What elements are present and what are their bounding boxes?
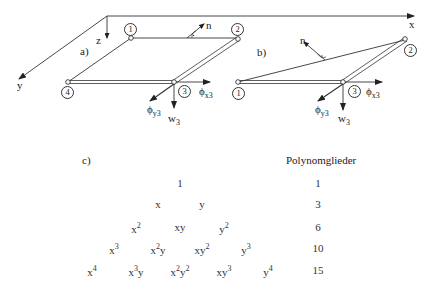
normal-label-b: n	[300, 35, 306, 46]
x-axis-label: x	[409, 19, 415, 30]
y-axis	[19, 16, 107, 79]
polynomial-term: xy3	[217, 265, 232, 278]
polynomial-term: xy2	[195, 243, 210, 256]
figure-b-label: b)	[257, 47, 266, 58]
figure-c-label: c)	[82, 155, 91, 166]
polynomial-term: y2	[219, 222, 229, 235]
phi-x-label-b: ϕx3	[366, 86, 380, 100]
node-3-a	[172, 80, 177, 85]
polynomial-term: x3y	[129, 265, 144, 278]
term-count: 1	[315, 178, 321, 189]
figure-a-label: a)	[80, 46, 89, 57]
global-axes	[19, 16, 414, 79]
node-label-2-b: 2	[404, 44, 417, 57]
plate-quad	[66, 24, 241, 108]
term-count: 10	[313, 243, 324, 254]
node-label-3-a: 3	[178, 85, 191, 98]
node-1-b	[236, 80, 241, 85]
polynomial-term: x	[155, 199, 161, 210]
element-diagram	[0, 0, 430, 150]
node-label-3-b: 3	[348, 85, 361, 98]
polynomial-term: xy	[175, 222, 186, 233]
polynomial-term: x2	[131, 222, 141, 235]
term-count: 15	[313, 265, 324, 276]
node-4-a	[66, 80, 71, 85]
node-2-a	[236, 37, 241, 42]
polynomial-term: y4	[263, 265, 273, 278]
node-1-a	[129, 36, 134, 41]
y-axis-label: y	[17, 80, 23, 91]
node-label-4-a: 4	[61, 86, 74, 99]
w-label-a: w3	[168, 113, 180, 127]
polynomial-term: x2y	[151, 243, 166, 256]
node-label-1-b: 1	[232, 87, 245, 100]
polynomial-term: x4	[87, 265, 97, 278]
polynomial-term: 1	[177, 178, 183, 189]
phi-y-label-b: ϕy3	[315, 104, 329, 118]
node-label-2-a: 2	[231, 23, 244, 36]
node-3-b	[341, 80, 346, 85]
phi-x-label-a: ϕx3	[199, 86, 213, 100]
term-count: 6	[315, 222, 321, 233]
node-2-b	[403, 37, 408, 42]
z-axis-label: z	[96, 35, 101, 46]
polynomial-term: x3	[109, 243, 119, 256]
polynomial-term: y3	[241, 243, 251, 256]
phi-y-label-a: ϕy3	[147, 104, 161, 118]
polynomial-term: y	[199, 199, 205, 210]
node-label-1-a: 1	[124, 23, 137, 36]
phi-y-arrow-a	[150, 84, 174, 101]
polynomial-terms-header: Polynomglieder	[286, 155, 356, 166]
term-count: 3	[315, 199, 321, 210]
w-label-b: w3	[338, 113, 350, 127]
normal-label-a: n	[206, 20, 212, 31]
phi-y-arrow-b	[318, 84, 343, 101]
polynomial-term: x2y2	[171, 265, 190, 278]
